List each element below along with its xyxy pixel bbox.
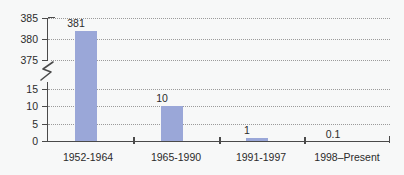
plot-area	[48, 18, 390, 142]
y-tick-375	[42, 60, 48, 61]
gridline-375	[48, 60, 390, 61]
y-tick-label-15: 15	[26, 84, 38, 95]
y-tick-label-10: 10	[26, 101, 38, 112]
bar-1965-1990	[161, 106, 183, 142]
bar-1952-1964	[75, 31, 97, 142]
y-tick-10	[42, 106, 48, 107]
y-tick-0	[42, 141, 48, 142]
gridline-10	[48, 106, 390, 107]
x-tick-2	[219, 137, 221, 144]
y-tick-label-5: 5	[32, 119, 38, 130]
x-category-label-1965-1990: 1965-1990	[131, 152, 221, 163]
x-category-label-1991-1997: 1991-1997	[216, 152, 306, 163]
x-tick-1	[133, 137, 135, 144]
bar-value-label-1998-present: 0.1	[303, 129, 363, 140]
bar-value-label-1991-1997: 1	[217, 125, 277, 136]
bar-value-label-1952-1964: 381	[46, 18, 106, 29]
gridline-15	[48, 89, 390, 90]
gridline-380	[48, 39, 390, 40]
y-tick-15	[42, 89, 48, 90]
x-axis-right-cap	[389, 136, 390, 143]
y-tick-5	[42, 124, 48, 125]
y-tick-380	[42, 39, 48, 40]
x-category-label-1998-present: 1998–Present	[300, 152, 394, 163]
y-tick-label-375: 375	[20, 55, 38, 66]
axis-break-zigzag-icon	[39, 60, 57, 82]
x-category-label-1952-1964: 1952-1964	[43, 152, 133, 163]
bar-value-label-1965-1990: 10	[132, 93, 192, 104]
y-tick-label-0: 0	[32, 136, 38, 147]
y-tick-label-380: 380	[20, 34, 38, 45]
y-tick-label-385: 385	[20, 13, 38, 24]
bar-chart: 385 380 375 15 10 5 0 381 10 1 0.1 1952-…	[0, 0, 404, 175]
x-tick-3	[304, 137, 306, 144]
